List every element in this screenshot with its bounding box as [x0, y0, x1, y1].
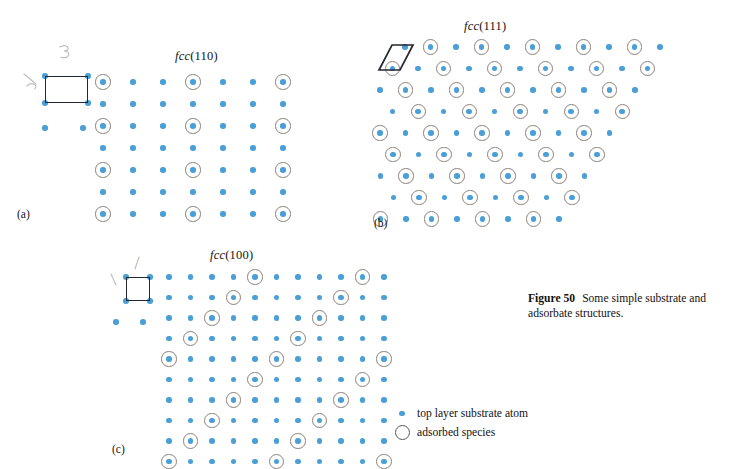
- panel-fcc-100: fcc(100) (c): [0, 240, 440, 468]
- substrate-atom: [274, 438, 280, 444]
- adsorbed-species: [204, 310, 219, 325]
- adsorbed-species: [226, 290, 241, 305]
- substrate-atom: [166, 397, 172, 403]
- substrate-atom: [166, 336, 172, 342]
- substrate-atom: [231, 377, 237, 383]
- substrate-atom: [381, 315, 387, 321]
- substrate-atom: [209, 377, 215, 383]
- substrate-atom: [140, 319, 146, 325]
- substrate-atom: [274, 377, 280, 383]
- substrate-atom: [360, 459, 366, 465]
- substrate-atom: [166, 438, 172, 444]
- substrate-atom: [274, 315, 280, 321]
- adsorbed-species: [333, 392, 348, 407]
- pencil-annotation-tick-up-c: [130, 256, 144, 272]
- adsorbed-species: [269, 351, 284, 366]
- substrate-atom: [381, 418, 387, 424]
- adsorbed-species: [376, 351, 391, 366]
- substrate-atom: [188, 295, 194, 301]
- substrate-atom: [381, 274, 387, 280]
- substrate-atom: [295, 356, 301, 362]
- substrate-atom: [274, 418, 280, 424]
- substrate-atom: [317, 397, 323, 403]
- substrate-atom: [209, 459, 215, 465]
- substrate-atom: [381, 438, 387, 444]
- legend-item-substrate-atom: top layer substrate atom: [395, 404, 528, 423]
- substrate-atom: [317, 438, 323, 444]
- panel-c-label: (c): [112, 443, 125, 455]
- adsorbed-species: [290, 331, 305, 346]
- adsorbed-species: [290, 433, 305, 448]
- substrate-atom: [381, 336, 387, 342]
- substrate-atom: [188, 356, 194, 362]
- adsorbed-species: [312, 310, 327, 325]
- adsorbed-species-icon: [395, 423, 417, 442]
- pencil-annotation-tick-left-c: [108, 272, 122, 288]
- adsorbed-species: [355, 269, 370, 284]
- substrate-atom: [360, 356, 366, 362]
- substrate-atom: [338, 356, 344, 362]
- adsorbed-species: [161, 351, 176, 366]
- substrate-atom: [295, 274, 301, 280]
- figure-caption: Figure 50Some simple substrate and adsor…: [528, 291, 713, 322]
- substrate-atom: [252, 315, 258, 321]
- substrate-atom: [231, 315, 237, 321]
- substrate-atom: [252, 418, 258, 424]
- substrate-atom: [317, 356, 323, 362]
- substrate-atom: [231, 356, 237, 362]
- adsorbed-species: [269, 454, 284, 469]
- substrate-atom: [166, 377, 172, 383]
- substrate-atom: [360, 397, 366, 403]
- substrate-atom: [231, 274, 237, 280]
- substrate-atom: [231, 459, 237, 465]
- substrate-atom: [381, 397, 387, 403]
- substrate-atom: [188, 377, 194, 383]
- substrate-atom: [209, 274, 215, 280]
- adsorbed-species: [161, 454, 176, 469]
- adsorbed-species: [312, 413, 327, 428]
- adsorbed-species: [247, 372, 262, 387]
- figure-legend: top layer substrate atom adsorbed specie…: [395, 404, 528, 442]
- substrate-atom: [188, 418, 194, 424]
- substrate-atom: [252, 336, 258, 342]
- substrate-atom: [381, 295, 387, 301]
- substrate-atom: [188, 397, 194, 403]
- substrate-atom: [295, 459, 301, 465]
- substrate-atom: [209, 397, 215, 403]
- substrate-atom: [338, 315, 344, 321]
- substrate-atom: [338, 274, 344, 280]
- substrate-atom: [274, 336, 280, 342]
- adsorbed-species: [333, 290, 348, 305]
- legend-item-adsorbed-species: adsorbed species: [395, 423, 528, 442]
- substrate-atom: [252, 438, 258, 444]
- substrate-atom: [381, 377, 387, 383]
- substrate-atom: [338, 336, 344, 342]
- adsorbed-species: [247, 269, 262, 284]
- adsorbed-species: [183, 433, 198, 448]
- substrate-atom: [209, 356, 215, 362]
- substrate-atom: [295, 377, 301, 383]
- substrate-atom: [209, 295, 215, 301]
- unit-cell-square-c: [126, 277, 150, 301]
- substrate-atom: [338, 459, 344, 465]
- substrate-atom: [295, 315, 301, 321]
- legend-label-adsorbed-species: adsorbed species: [417, 426, 495, 439]
- substrate-atom: [338, 418, 344, 424]
- substrate-atom: [113, 319, 119, 325]
- substrate-atom: [317, 459, 323, 465]
- substrate-atom: [360, 418, 366, 424]
- substrate-atom: [295, 397, 301, 403]
- substrate-atom: [188, 274, 194, 280]
- substrate-atom: [166, 315, 172, 321]
- substrate-atom: [166, 295, 172, 301]
- substrate-atom: [360, 315, 366, 321]
- substrate-atom: [252, 356, 258, 362]
- substrate-atom: [274, 295, 280, 301]
- substrate-atom: [166, 418, 172, 424]
- substrate-atom: [360, 336, 366, 342]
- substrate-atom: [317, 377, 323, 383]
- substrate-atom: [338, 438, 344, 444]
- substrate-atom: [166, 274, 172, 280]
- adsorbed-species: [376, 454, 391, 469]
